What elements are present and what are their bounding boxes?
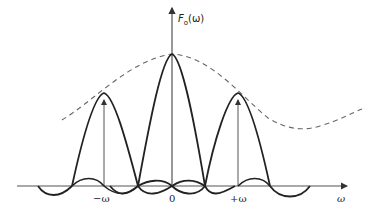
right-sidelobe-hump (238, 179, 270, 187)
envelope-curve (62, 54, 362, 129)
tick-label-plus-omega: +ω (230, 194, 247, 204)
diagram-canvas: Fo(ω) −ω 0 +ω ω (0, 0, 378, 216)
left-lobe-sidelobes (38, 186, 72, 195)
x-axis-label: ω (337, 194, 345, 204)
tick-label-zero: 0 (169, 194, 175, 204)
x-label-text: ω (337, 193, 345, 204)
tick-label-minus-omega: −ω (93, 194, 110, 204)
y-axis-label: Fo(ω) (178, 14, 204, 27)
left-sidelobe-hump (72, 179, 104, 187)
spectrum-diagram (0, 0, 378, 216)
y-label-arg: (ω) (188, 13, 204, 24)
right-lobe (205, 93, 310, 197)
